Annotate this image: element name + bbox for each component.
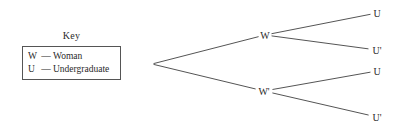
tree-edge-root-to-w bbox=[154, 37, 258, 64]
tree-node-wprime: W' bbox=[258, 86, 269, 97]
tree-node-u1: U bbox=[373, 8, 381, 19]
tree-node-u2: U bbox=[373, 66, 381, 77]
probability-tree: WW'UU'UU' bbox=[0, 0, 406, 131]
tree-node-label-group: WW'UU'UU' bbox=[258, 8, 381, 123]
tree-node-w: W bbox=[260, 30, 270, 41]
tree-node-u2p: U' bbox=[372, 112, 381, 123]
tree-diagram-figure: Key W — Woman U — Undergraduate WW'UU'UU… bbox=[0, 0, 406, 131]
tree-edge-w-to-u1 bbox=[272, 14, 370, 33]
tree-edge-root-to-wprime bbox=[154, 64, 255, 88]
tree-edge-wprime-to-u2 bbox=[273, 72, 370, 89]
tree-edge-wprime-to-u2p bbox=[273, 93, 368, 115]
tree-edge-w-to-u1p bbox=[272, 36, 368, 49]
tree-node-u1p: U' bbox=[372, 45, 381, 56]
